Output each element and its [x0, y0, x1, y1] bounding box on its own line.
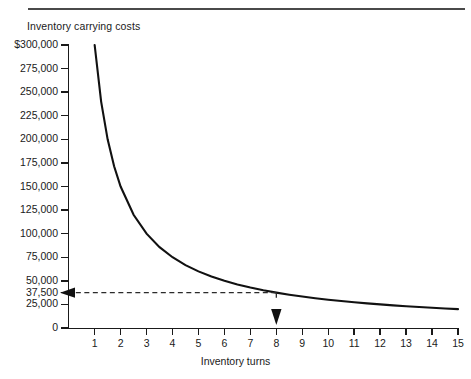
- x-axis-caption: Inventory turns: [0, 355, 471, 367]
- left-arrowhead-icon: [60, 287, 75, 297]
- cost-curve: [95, 45, 458, 309]
- down-arrowhead-icon: [271, 309, 281, 325]
- plot-area: [0, 0, 471, 379]
- chart-figure: Inventory carrying costs $300,000275,000…: [0, 0, 471, 379]
- annotation-layer: [60, 287, 282, 325]
